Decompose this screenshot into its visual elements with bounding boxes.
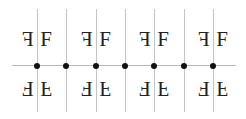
rotation-center-dot — [93, 63, 99, 69]
rotated-f-glyph: F — [196, 78, 212, 99]
rotation-center-dot — [63, 63, 69, 69]
rotation-center-dot — [151, 63, 157, 69]
rotation-center-dot — [34, 63, 40, 69]
rotation-center-dot — [181, 63, 187, 69]
rotated-f-glyph: F — [79, 78, 95, 99]
rotation-center-dot — [122, 63, 128, 69]
flipped-f-glyph: F — [214, 78, 230, 99]
mirrored-f-glyph: F — [20, 29, 36, 50]
f-glyph: F — [214, 29, 230, 50]
vertical-mirror-line — [184, 9, 185, 112]
rotated-f-glyph: F — [137, 78, 153, 99]
f-glyph: F — [97, 29, 113, 50]
vertical-mirror-line — [125, 9, 126, 112]
flipped-f-glyph: F — [97, 78, 113, 99]
rotation-center-dot — [210, 63, 216, 69]
f-glyph: F — [155, 29, 171, 50]
f-glyph: F — [38, 29, 54, 50]
mirrored-f-glyph: F — [79, 29, 95, 50]
frieze-pattern-diagram: FFFFFFFFFFFFFFFF — [0, 0, 246, 119]
flipped-f-glyph: F — [38, 78, 54, 99]
vertical-mirror-line — [66, 9, 67, 112]
rotated-f-glyph: F — [20, 78, 36, 99]
mirrored-f-glyph: F — [196, 29, 212, 50]
mirrored-f-glyph: F — [137, 29, 153, 50]
flipped-f-glyph: F — [155, 78, 171, 99]
